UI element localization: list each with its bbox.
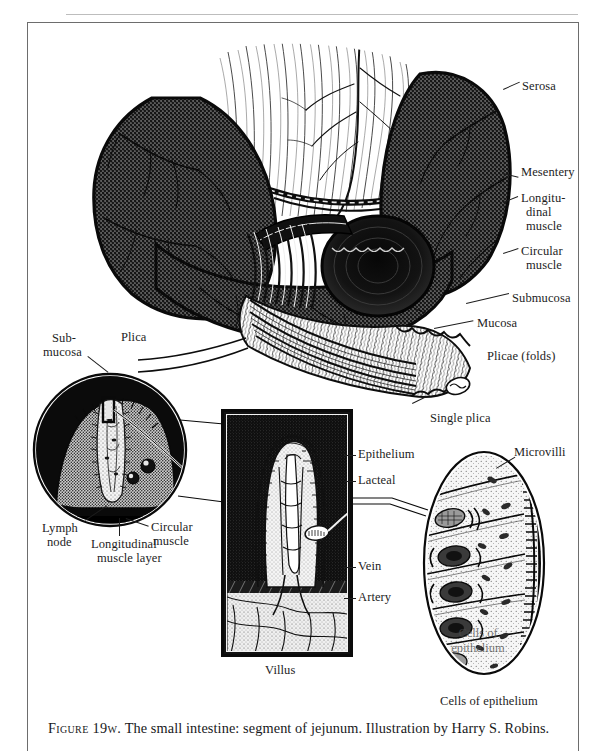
figure-caption: Figure 19w. The small intestine: segment… (48, 718, 568, 738)
leader-epithelium (344, 455, 356, 456)
label-submucosa-main: Submucosa (512, 292, 571, 306)
page-hairline-rule (66, 14, 578, 15)
label-inset-circular-muscle-line2: muscle (153, 535, 189, 549)
label-inset-longitudinal-layer-line2: muscle layer (97, 552, 162, 566)
label-cells-of-epithelium: Cells of epithelium (440, 695, 538, 709)
page-frame-top (27, 22, 578, 23)
page-frame-right (578, 22, 579, 751)
leader-artery (344, 598, 356, 599)
villus-panel-inner (226, 414, 348, 652)
label-longitudinal-muscle-line2: dinal (526, 206, 552, 220)
label-inset-submucosa-line1: Sub- (52, 332, 76, 346)
label-inset-circular-muscle-line1: Circular (151, 521, 193, 535)
label-vein: Vein (358, 560, 381, 574)
label-artery: Artery (358, 591, 391, 605)
overlay-cells-of-epithelium-line2: epithelium (436, 641, 520, 655)
villus-panel (221, 409, 353, 657)
page-frame-left (27, 22, 28, 751)
label-microvilli: Microvilli (514, 446, 566, 460)
label-circular-muscle-main-line1: Circular (521, 245, 563, 259)
label-villus-caption: Villus (265, 664, 295, 678)
label-inset-longitudinal-layer-line1: Longitudinal (91, 538, 157, 552)
label-epithelium: Epithelium (358, 448, 415, 462)
label-mesentery: Mesentery (521, 166, 575, 180)
plicae-tail-to-inset (138, 338, 248, 372)
label-longitudinal-muscle-line1: Longitu- (521, 192, 566, 206)
label-inset-submucosa-line2: mucosa (43, 346, 82, 360)
label-plicae-folds: Plicae (folds) (487, 350, 555, 364)
figure-page: Serosa Mesentery Longitu- dinal muscle C… (0, 0, 607, 751)
label-inset-lymph-node-line1: Lymph (42, 522, 78, 536)
label-circular-muscle-main-line2: muscle (526, 259, 562, 273)
overlay-cells-of-epithelium-line1: Cells of (443, 626, 513, 640)
label-longitudinal-muscle-line3: muscle (526, 220, 562, 234)
label-single-plica: Single plica (430, 412, 491, 426)
figure-caption-text: The small intestine: segment of jejunum.… (121, 720, 549, 736)
label-inset-lymph-node-line2: node (47, 536, 72, 550)
label-inset-plica: Plica (121, 331, 147, 345)
leader-vein (344, 567, 356, 568)
leader-inset-longitudinal-layer (119, 518, 120, 536)
figure-number: Figure 19w. (48, 720, 121, 736)
label-mucosa-main: Mucosa (477, 317, 517, 331)
label-lacteal: Lacteal (358, 474, 395, 488)
leader-lacteal (344, 481, 356, 482)
label-serosa: Serosa (522, 80, 556, 94)
plica-inset-illustration (30, 370, 195, 535)
